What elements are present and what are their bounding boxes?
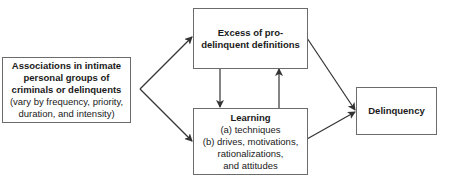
node-associations: Associations in intimate personal groups… [2,57,131,123]
associations-detail-2: duration, and intensity) [18,108,114,120]
arrow-associations-to-definitions [140,37,192,89]
associations-title-3: criminals or delinquents [12,84,122,96]
node-delinquency: Delinquency [356,87,437,135]
arrow-definitions-to-delinquency [307,38,355,110]
definitions-title-1: Excess of pro- [218,27,283,39]
arrow-learning-to-delinquency [307,112,355,139]
delinquency-title: Delinquency [368,105,425,117]
learning-detail-2: (b) drives, motivations, [203,136,299,148]
node-learning: Learning (a) techniques (b) drives, moti… [193,108,308,175]
associations-title-2: personal groups of [23,72,109,84]
definitions-title-2: delinquent definitions [201,39,300,51]
arrow-associations-to-learning [140,89,192,141]
associations-detail-1: (vary by frequency, priority, [10,96,123,108]
node-definitions: Excess of pro- delinquent definitions [193,8,308,69]
learning-detail-3: rationalizations, [217,148,283,160]
associations-title-1: Associations in intimate [12,60,121,72]
learning-detail-1: (a) techniques [220,124,280,136]
learning-detail-4: and attitudes [223,160,277,172]
learning-title: Learning [230,112,270,124]
